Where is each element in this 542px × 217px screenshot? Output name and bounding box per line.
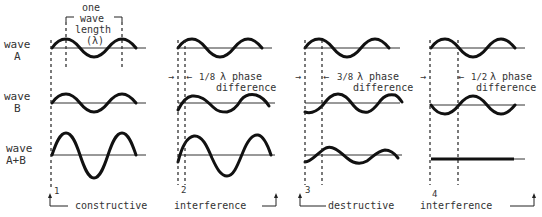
panel-4-destructive: → ← 1/2 λ phase difference 4 [420,39,536,199]
interference-diagram: wave A wave B wave A+B one wave length (… [0,0,542,217]
svg-text:←: ← [323,71,329,82]
destructive-bracket: destructive interference [298,193,536,211]
svg-text:3: 3 [305,185,310,195]
svg-text:→: → [168,71,174,82]
row-label-wave-sum: wave A+B [6,142,33,167]
svg-text:A: A [14,50,21,63]
panel-2-constructive: → ← 1/8 λ phase difference 2 [168,39,276,195]
svg-text:λ phase: λ phase [357,71,399,82]
row-label-wave-b: wave B [4,90,31,115]
svg-text:one: one [82,2,100,13]
svg-text:1/8: 1/8 [199,72,215,82]
constructive-bracket: constructive interference [48,193,278,211]
svg-text:difference: difference [216,82,276,93]
svg-text:→: → [420,71,426,82]
svg-text:(λ): (λ) [86,35,104,46]
svg-text:length: length [75,24,111,35]
svg-text:difference: difference [476,82,536,93]
svg-text:wave: wave [80,13,104,24]
svg-text:interference: interference [174,200,246,211]
svg-text:1: 1 [54,186,59,196]
svg-text:difference: difference [353,82,413,93]
svg-text:←: ← [458,71,464,82]
panel-1-constructive: 1 [51,39,146,196]
svg-text:→: → [295,71,301,82]
svg-text:A+B: A+B [6,154,26,167]
svg-text:destructive: destructive [328,200,394,211]
row-label-wave-a: wave A [4,38,31,63]
svg-text:2: 2 [181,185,186,195]
svg-text:1/2: 1/2 [471,72,487,82]
svg-text:λ phase: λ phase [220,71,262,82]
panel-3-destructive: → ← 3/8 λ phase difference 3 [295,39,413,195]
svg-text:interference: interference [420,200,492,211]
svg-text:λ phase: λ phase [490,71,532,82]
svg-text:4: 4 [432,189,437,199]
svg-text:B: B [14,102,21,115]
svg-text:constructive: constructive [75,200,147,211]
svg-text:3/8: 3/8 [337,72,353,82]
svg-text:←: ← [186,71,192,82]
